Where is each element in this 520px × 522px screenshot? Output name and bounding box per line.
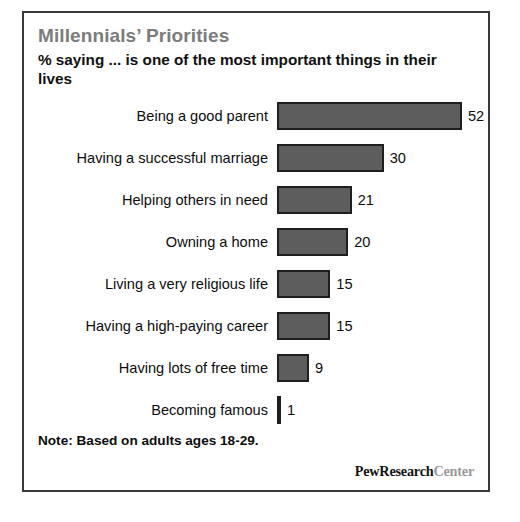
bar — [277, 312, 330, 340]
chart-note: Note: Based on adults ages 18-29. — [38, 433, 259, 448]
bar — [277, 270, 330, 298]
bar-row: Having lots of free time9 — [38, 347, 474, 389]
bar-track: Having lots of free time9 — [277, 347, 474, 389]
bar-category-label: Having a high-paying career — [47, 318, 277, 334]
chart-frame: Millennials’ Priorities % saying ... is … — [22, 11, 490, 492]
bar-value-label: 15 — [336, 276, 352, 292]
bar-category-label: Being a good parent — [47, 108, 277, 124]
bar — [277, 228, 348, 256]
bar-row: Owning a home20 — [38, 221, 474, 263]
bar-chart-plot: Being a good parent52Having a successful… — [38, 95, 474, 411]
bar — [277, 186, 352, 214]
bar-track: Living a very religious life15 — [277, 263, 474, 305]
bar — [277, 144, 384, 172]
bar-category-label: Living a very religious life — [47, 276, 277, 292]
logo-secondary-text: Center — [433, 463, 474, 479]
bar-category-label: Having lots of free time — [47, 360, 277, 376]
bar-value-label: 30 — [390, 150, 406, 166]
bar-track: Becoming famous1 — [277, 389, 474, 431]
bar-value-label: 9 — [315, 360, 323, 376]
bar-row: Living a very religious life15 — [38, 263, 474, 305]
bar-category-label: Helping others in need — [47, 192, 277, 208]
bar-track: Having a successful marriage30 — [277, 137, 474, 179]
bar-track: Owning a home20 — [277, 221, 474, 263]
pew-research-center-logo: PewResearchCenter — [355, 463, 474, 480]
bar-track: Having a high-paying career15 — [277, 305, 474, 347]
bar — [277, 102, 462, 130]
bar-row: Having a high-paying career15 — [38, 305, 474, 347]
bar-track: Being a good parent52 — [277, 95, 474, 137]
bar-row: Becoming famous1 — [38, 389, 474, 431]
bar-track: Helping others in need21 — [277, 179, 474, 221]
bar — [277, 354, 309, 382]
bar-value-label: 21 — [358, 192, 374, 208]
bar — [277, 396, 281, 424]
bar-row: Being a good parent52 — [38, 95, 474, 137]
bar-value-label: 20 — [354, 234, 370, 250]
bar-category-label: Owning a home — [47, 234, 277, 250]
logo-primary-text: PewResearch — [355, 463, 434, 479]
chart-subtitle: % saying ... is one of the most importan… — [38, 50, 468, 89]
bar-row: Helping others in need21 — [38, 179, 474, 221]
chart-inner: Millennials’ Priorities % saying ... is … — [24, 13, 488, 490]
bar-category-label: Becoming famous — [47, 402, 277, 418]
bar-value-label: 1 — [287, 402, 295, 418]
bar-row: Having a successful marriage30 — [38, 137, 474, 179]
bar-value-label: 52 — [468, 108, 484, 124]
bar-category-label: Having a successful marriage — [47, 150, 277, 166]
chart-title: Millennials’ Priorities — [38, 25, 474, 47]
bar-value-label: 15 — [336, 318, 352, 334]
